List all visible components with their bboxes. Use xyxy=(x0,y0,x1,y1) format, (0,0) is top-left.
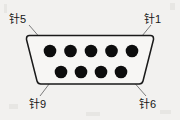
pin-9 xyxy=(55,66,68,79)
pin-3 xyxy=(85,45,98,58)
pin-4 xyxy=(64,45,77,58)
pin-label-1: 针1 xyxy=(144,13,161,25)
pin-6 xyxy=(115,66,128,79)
pin-2 xyxy=(105,45,118,58)
pin-label-6: 针6 xyxy=(139,98,156,110)
pin-5 xyxy=(44,45,57,58)
pin-1 xyxy=(126,45,139,58)
pin-7 xyxy=(95,66,108,79)
pin-label-9: 针9 xyxy=(29,98,46,110)
db9-connector-figure: 针5 针1 针9 针6 xyxy=(0,0,180,120)
connector-outline xyxy=(27,36,154,85)
pin-label-5: 针5 xyxy=(9,13,26,25)
pin-8 xyxy=(75,66,88,79)
